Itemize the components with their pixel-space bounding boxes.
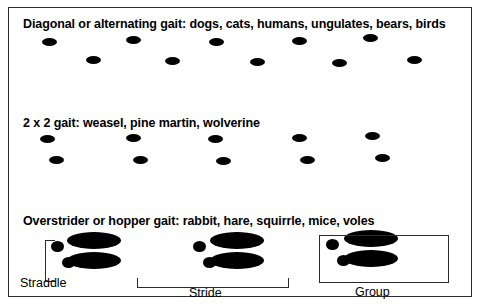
hind-foot-track — [67, 252, 121, 269]
track-dot — [292, 37, 307, 45]
track-dot — [209, 38, 224, 46]
panel-title-overstrider-gait: Overstrider or hopper gait: rabbit, hare… — [23, 214, 374, 228]
track-dot — [375, 154, 390, 162]
track-dot — [42, 38, 57, 46]
diagram-frame: Diagonal or alternating gait: dogs, cats… — [8, 7, 472, 297]
straddle-label: Straddle — [20, 276, 67, 290]
track-dot — [365, 132, 380, 140]
track-dot — [126, 36, 141, 44]
group-label: Group — [355, 285, 390, 299]
track-dot — [133, 156, 148, 164]
track-dot — [332, 59, 347, 67]
track-dot — [126, 134, 141, 142]
hind-foot-track — [67, 232, 121, 249]
track-dot — [363, 34, 378, 42]
group-box — [319, 235, 449, 283]
panel-title-two-by-two-gait: 2 x 2 gait: weasel, pine martin, wolveri… — [23, 116, 260, 130]
track-dot — [49, 156, 64, 164]
track-dot — [250, 58, 265, 66]
track-dot — [300, 156, 315, 164]
track-dot — [165, 57, 180, 65]
front-foot-track — [193, 241, 206, 252]
track-dot — [40, 135, 55, 143]
track-dot — [208, 135, 223, 143]
hind-foot-track — [210, 252, 264, 269]
track-dot — [292, 134, 307, 142]
gait-diagram-canvas: Diagonal or alternating gait: dogs, cats… — [0, 0, 485, 308]
hind-foot-track — [210, 232, 264, 249]
track-dot — [86, 56, 101, 64]
stride-label: Stride — [189, 286, 222, 300]
track-dot — [216, 157, 231, 165]
panel-title-diagonal-gait: Diagonal or alternating gait: dogs, cats… — [23, 17, 446, 31]
track-dot — [407, 56, 422, 64]
